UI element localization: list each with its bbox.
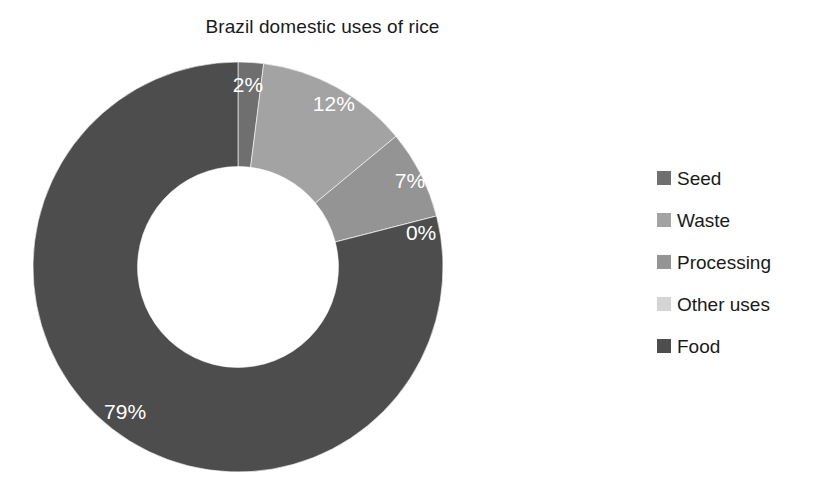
legend-label-waste: Waste [677, 211, 730, 230]
legend-item-food[interactable]: Food [657, 325, 822, 367]
legend-item-seed[interactable]: Seed [657, 157, 822, 199]
data-label-food: 79% [104, 400, 146, 423]
chart-legend: SeedWasteProcessingOther usesFood [657, 157, 822, 367]
data-label-seed: 2% [233, 73, 263, 96]
doughnut-slice-group [33, 62, 443, 472]
legend-label-seed: Seed [677, 169, 721, 188]
doughnut-plot-area: 2%12%7%0%79% [28, 58, 448, 476]
chart-title: Brazil domestic uses of rice [0, 16, 645, 38]
legend-label-food: Food [677, 337, 720, 356]
legend-swatch-icon-waste [657, 213, 671, 227]
legend-swatch-icon-processing [657, 255, 671, 269]
data-label-processing: 7% [395, 169, 425, 192]
data-label-other-uses: 0% [406, 221, 436, 244]
doughnut-chart: 2%12%7%0%79% [28, 58, 448, 476]
legend-label-other-uses: Other uses [677, 295, 770, 314]
legend-swatch-icon-food [657, 339, 671, 353]
legend-swatch-icon-seed [657, 171, 671, 185]
legend-item-waste[interactable]: Waste [657, 199, 822, 241]
data-label-waste: 12% [313, 92, 355, 115]
legend-item-processing[interactable]: Processing [657, 241, 822, 283]
legend-swatch-icon-other-uses [657, 297, 671, 311]
chart-container: Brazil domestic uses of rice 2%12%7%0%79… [0, 0, 828, 491]
legend-label-processing: Processing [677, 253, 771, 272]
legend-item-other-uses[interactable]: Other uses [657, 283, 822, 325]
